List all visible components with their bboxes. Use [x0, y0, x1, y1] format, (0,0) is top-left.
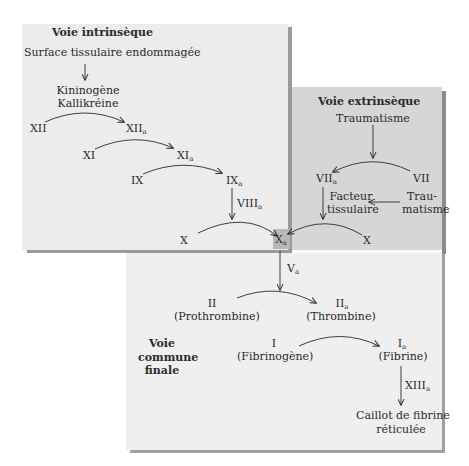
pathway-arrows	[0, 0, 469, 466]
thrombin-label: (Thrombine)	[305, 310, 377, 323]
fibrin-label: (Fibrine)	[378, 350, 428, 363]
arc-ii-to-iia	[237, 291, 316, 303]
factor-vii-label: VII	[413, 172, 430, 185]
intrinsic-pathway-title: Voie intrinsèque	[52, 26, 153, 39]
factor-viiia-label: VIIIa	[237, 197, 262, 210]
tissue-factor-line1: Facteur	[327, 190, 375, 203]
arc-x-to-xa	[198, 222, 277, 236]
common-pathway-title-line1: Voie	[138, 337, 186, 350]
extrinsic-pathway-title: Voie extrinsèque	[318, 95, 418, 108]
factor-xi-label: XI	[83, 149, 95, 162]
factor-x-extrinsic-label: X	[363, 234, 371, 247]
factor-xiia-label: XIIa	[126, 122, 147, 135]
tissue-factor-line2: tissulaire	[327, 203, 375, 216]
factor-x-intrinsic-label: X	[180, 234, 188, 247]
fibrin-clot-line2: réticulée	[356, 423, 446, 436]
factor-ixa-label: IXa	[226, 174, 242, 187]
arc-xii-to-xiia	[45, 113, 124, 122]
fibrin-clot-line1: Caillot de fibrine	[356, 409, 446, 422]
arc-i-to-ia	[299, 337, 379, 347]
common-pathway-title-line3: finale	[138, 364, 186, 377]
factor-ia-label: Ia	[380, 337, 424, 350]
factor-xiiia-label: XIIIa	[405, 379, 430, 392]
factor-ix-label: IX	[131, 174, 143, 187]
arc-x-to-xa-extrinsic	[288, 224, 362, 235]
factor-viia-label: VIIa	[316, 172, 337, 185]
arc-vii-to-viia	[333, 162, 410, 172]
trauma-secondary-line2: matisme	[402, 203, 442, 216]
arc-ix-to-ixa	[143, 165, 222, 174]
fibrinogen-label: (Fibrinogène)	[237, 350, 311, 363]
kallikrein-label: Kallikréine	[55, 97, 121, 110]
factor-xia-label: XIa	[177, 149, 193, 162]
common-pathway-title-line2: commune	[138, 351, 186, 364]
damaged-tissue-surface-label: Surface tissulaire endommagée	[24, 46, 201, 59]
kininogen-label: Kininogène	[55, 84, 121, 97]
factor-iia-label: IIa	[318, 297, 366, 310]
factor-xa-label: Xa	[275, 233, 287, 246]
factor-xii-label: XII	[30, 122, 47, 135]
arc-xi-to-xia	[95, 140, 173, 149]
factor-ii-label: II	[185, 297, 239, 310]
factor-i-label: I	[250, 337, 298, 350]
prothrombin-label: (Prothrombine)	[174, 310, 254, 323]
trauma-label: Traumatisme	[330, 112, 416, 125]
trauma-secondary-line1: Trau-	[402, 190, 442, 203]
factor-va-label: Va	[287, 262, 299, 275]
